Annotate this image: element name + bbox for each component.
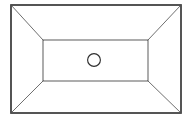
center-drain-hole-icon: [88, 54, 101, 67]
outer-rim-rectangle: [11, 5, 181, 113]
taper-bottom-left: [11, 81, 43, 113]
technical-drawing-canvas: [0, 0, 192, 122]
taper-bottom-right: [148, 81, 181, 113]
line-drawing-svg: [0, 0, 192, 122]
taper-top-right: [148, 5, 181, 40]
inner-base-rectangle: [43, 40, 148, 81]
taper-top-left: [11, 5, 43, 40]
